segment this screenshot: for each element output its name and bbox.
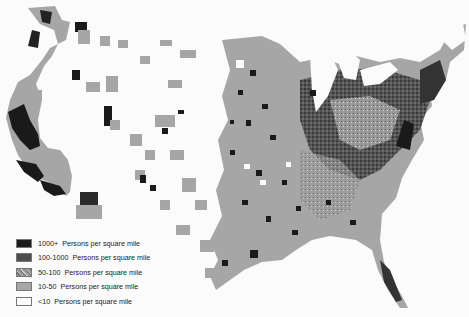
legend-swatch [16,253,32,262]
legend-label: 1000+Persons per square mile [38,239,140,248]
legend-swatch [16,297,32,306]
legend-label: 10-50Persons per square mile [38,282,138,291]
legend-label: 100-1000Persons per square mile [38,253,150,262]
legend-item-1000-plus: 1000+Persons per square mile [16,236,150,251]
map-legend: 1000+Persons per square mile 100-1000Per… [16,236,150,309]
legend-label: 50-100Persons per square mile [38,268,142,277]
legend-item-under-10: <10Persons per square mile [16,294,150,309]
legend-swatch [16,268,32,277]
legend-swatch [16,239,32,248]
legend-item-10-50: 10-50Persons per square mile [16,280,150,295]
legend-item-50-100: 50-100Persons per square mile [16,265,150,280]
legend-swatch [16,282,32,291]
legend-label: <10Persons per square mile [38,297,132,306]
legend-item-100-1000: 100-1000Persons per square mile [16,251,150,266]
